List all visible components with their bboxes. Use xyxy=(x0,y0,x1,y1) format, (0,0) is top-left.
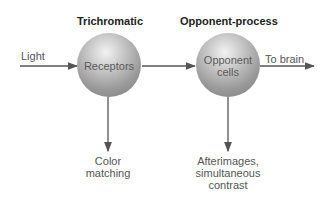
afterimages-line1: Afterimages, xyxy=(190,155,266,167)
light-label: Light xyxy=(21,50,45,62)
afterimages-line3: contrast xyxy=(190,179,266,191)
arrows-layer xyxy=(0,0,333,202)
opponent-cells-label: Opponent cells xyxy=(196,54,260,78)
color-matching-label: Color matching xyxy=(78,155,138,179)
afterimages-label: Afterimages, simultaneous contrast xyxy=(190,155,266,191)
afterimages-line2: simultaneous xyxy=(190,167,266,179)
color-matching-line1: Color xyxy=(78,155,138,167)
opponent-process-heading: Opponent-process xyxy=(180,15,278,27)
opponent-cells-line1: Opponent xyxy=(196,54,260,66)
trichromatic-heading: Trichromatic xyxy=(77,15,143,27)
to-brain-label: To brain xyxy=(265,53,304,65)
color-matching-line2: matching xyxy=(78,167,138,179)
opponent-cells-line2: cells xyxy=(196,66,260,78)
diagram-canvas: Trichromatic Opponent-process Light To b… xyxy=(0,0,333,202)
receptors-label: Receptors xyxy=(77,60,141,72)
